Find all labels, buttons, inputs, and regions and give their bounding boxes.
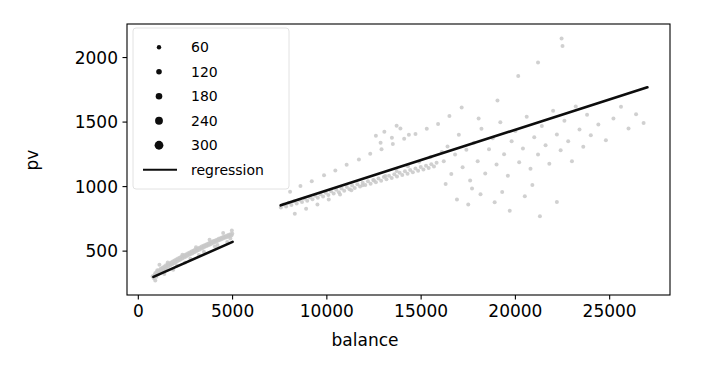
scatter-point bbox=[551, 109, 555, 113]
scatter-point bbox=[400, 173, 404, 177]
scatter-point bbox=[555, 200, 559, 204]
scatter-point bbox=[327, 198, 331, 202]
scatter-point bbox=[528, 167, 532, 171]
scatter-point bbox=[642, 121, 646, 125]
scatter-point bbox=[369, 182, 373, 186]
scatter-point bbox=[379, 141, 383, 145]
scatter-point bbox=[180, 253, 184, 257]
scatter-point bbox=[479, 127, 483, 131]
scatter-point bbox=[315, 202, 319, 206]
scatter-point bbox=[555, 132, 559, 136]
scatter-point bbox=[380, 147, 384, 151]
x-tick-label: 20000 bbox=[488, 301, 542, 321]
scatter-point bbox=[455, 198, 459, 202]
scatter-point bbox=[589, 133, 593, 137]
scatter-point bbox=[483, 171, 487, 175]
scatter-point bbox=[230, 232, 234, 236]
scatter-point bbox=[436, 122, 440, 126]
legend: 60120180240300regression bbox=[133, 28, 289, 189]
scatter-plot-figure: 0500010000150002000025000500100015002000… bbox=[0, 0, 706, 365]
scatter-point bbox=[166, 260, 170, 264]
scatter-point bbox=[425, 127, 429, 131]
scatter-point bbox=[523, 194, 527, 198]
scatter-point bbox=[155, 268, 159, 272]
scatter-point bbox=[493, 200, 497, 204]
scatter-point bbox=[468, 178, 472, 182]
scatter-point bbox=[495, 162, 499, 166]
scatter-point bbox=[194, 245, 198, 249]
y-tick-label: 1500 bbox=[75, 112, 118, 132]
scatter-point bbox=[604, 138, 608, 142]
legend-size-label: 120 bbox=[191, 64, 218, 80]
scatter-point bbox=[525, 115, 529, 119]
scatter-point bbox=[596, 122, 600, 126]
scatter-point bbox=[361, 183, 365, 187]
scatter-point bbox=[516, 74, 520, 78]
scatter-point bbox=[432, 165, 436, 169]
scatter-point bbox=[295, 202, 299, 206]
scatter-point bbox=[413, 132, 417, 136]
y-axis-label: pv bbox=[22, 150, 42, 171]
scatter-point bbox=[382, 130, 386, 134]
scatter-point bbox=[464, 148, 468, 152]
scatter-point bbox=[547, 162, 551, 166]
scatter-point bbox=[487, 147, 491, 151]
scatter-point bbox=[530, 183, 534, 187]
scatter-point bbox=[460, 106, 464, 110]
scatter-point bbox=[157, 263, 161, 267]
scatter-point bbox=[510, 139, 514, 143]
scatter-point bbox=[322, 173, 326, 177]
scatter-point bbox=[540, 124, 544, 128]
scatter-point bbox=[398, 127, 402, 131]
scatter-point bbox=[321, 194, 325, 198]
scatter-point bbox=[230, 228, 234, 232]
scatter-point bbox=[288, 190, 292, 194]
legend-size-marker bbox=[156, 69, 162, 75]
scatter-point bbox=[466, 202, 470, 206]
scatter-point bbox=[153, 279, 157, 283]
scatter-point bbox=[379, 179, 383, 183]
scatter-point bbox=[500, 190, 504, 194]
scatter-point bbox=[559, 148, 563, 152]
scatter-point bbox=[402, 137, 406, 141]
scatter-point bbox=[332, 192, 336, 196]
scatter-point bbox=[570, 159, 574, 163]
scatter-point bbox=[374, 134, 378, 138]
scatter-point bbox=[611, 116, 615, 120]
scatter-point bbox=[357, 158, 361, 162]
scatter-point bbox=[562, 119, 566, 123]
legend-size-marker bbox=[156, 93, 163, 100]
scatter-point bbox=[342, 189, 346, 193]
scatter-point bbox=[390, 176, 394, 180]
scatter-point bbox=[447, 114, 451, 118]
scatter-point bbox=[435, 161, 439, 165]
scatter-point bbox=[517, 160, 521, 164]
scatter-point bbox=[390, 136, 394, 140]
scatter-point bbox=[521, 146, 525, 150]
legend-size-label: 60 bbox=[191, 39, 209, 55]
scatter-point bbox=[372, 178, 376, 182]
y-tick-label: 500 bbox=[86, 241, 118, 261]
scatter-point bbox=[368, 152, 372, 156]
scatter-point bbox=[495, 98, 499, 102]
scatter-point bbox=[310, 179, 314, 183]
scatter-point bbox=[457, 133, 461, 137]
scatter-point bbox=[476, 159, 480, 163]
scatter-point bbox=[416, 169, 420, 173]
x-axis-label: balance bbox=[332, 330, 399, 350]
scatter-point bbox=[298, 184, 302, 188]
scatter-point bbox=[574, 105, 578, 109]
scatter-point bbox=[502, 152, 506, 156]
scatter-point bbox=[406, 172, 410, 176]
scatter-point bbox=[449, 172, 453, 176]
scatter-point bbox=[338, 193, 342, 197]
scatter-point bbox=[316, 196, 320, 200]
x-tick-label: 0 bbox=[133, 301, 144, 321]
scatter-point bbox=[221, 231, 225, 235]
scatter-point bbox=[566, 139, 570, 143]
scatter-point bbox=[391, 142, 395, 146]
scatter-point bbox=[349, 188, 353, 192]
legend-size-marker bbox=[155, 117, 163, 125]
scatter-point bbox=[446, 145, 450, 149]
x-tick-label: 10000 bbox=[300, 301, 354, 321]
